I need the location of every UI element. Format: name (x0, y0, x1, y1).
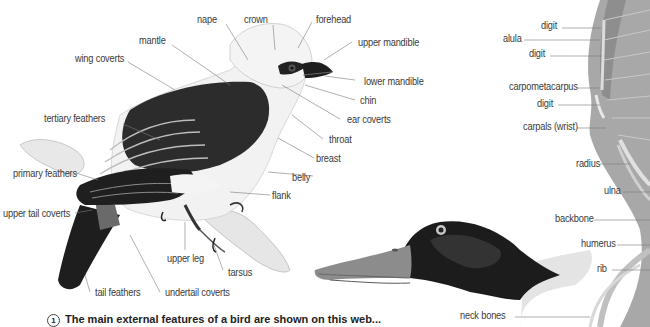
label-lower-mandible: lower mandible (364, 75, 424, 87)
label-tarsus: tarsus (228, 266, 252, 278)
label-tail-feathers: tail feathers (95, 286, 140, 298)
label-breast: breast (316, 152, 341, 164)
label-ulna: ulna (604, 184, 621, 196)
label-radius: radius (576, 157, 600, 169)
label-tertiary-feathers: tertiary feathers (44, 112, 105, 124)
label-ear-coverts: ear coverts (347, 113, 391, 125)
label-belly: belly (292, 171, 310, 183)
label-upper-tail-coverts: upper tail coverts (3, 207, 70, 219)
label-crown: crown (244, 13, 268, 25)
label-carpals-wrist: carpals (wrist) (523, 120, 578, 132)
duck-head-illustration (315, 221, 592, 327)
label-digit-3: digit (537, 97, 553, 109)
label-alula: alula (503, 32, 522, 44)
label-digit-1: digit (541, 19, 557, 31)
perched-bird-illustration (20, 24, 333, 290)
label-throat: throat (329, 133, 352, 145)
label-upper-mandible: upper mandible (358, 36, 419, 48)
label-humerus: humerus (581, 237, 616, 249)
label-mantle: mantle (139, 34, 166, 46)
label-wing-coverts: wing coverts (75, 52, 124, 64)
label-neck-bones: neck bones (460, 309, 506, 321)
label-chin: chin (360, 94, 376, 106)
figure-caption: 1The main external features of a bird ar… (47, 313, 381, 327)
label-primary-feathers: primary feathers (13, 167, 77, 179)
caption-number-badge: 1 (47, 314, 60, 327)
label-upper-leg: upper leg (167, 252, 204, 264)
label-forehead: forehead (316, 13, 351, 25)
label-rib: rib (597, 262, 607, 274)
caption-text: The main external features of a bird are… (65, 313, 381, 325)
label-backbone: backbone (555, 212, 594, 224)
label-carpometacarpus: carpometacarpus (509, 80, 578, 92)
label-flank: flank (272, 189, 291, 201)
label-undertail-coverts: undertail coverts (165, 286, 230, 298)
label-nape: nape (197, 13, 217, 25)
label-digit-2: digit (529, 47, 545, 59)
